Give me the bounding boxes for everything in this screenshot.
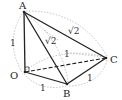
edge-oa: [24, 12, 25, 72]
diagram-canvas: A O B C 1 √2 √2 1 1 1: [0, 0, 122, 100]
length-label-bc: 1: [87, 73, 93, 83]
vertex-label-a: A: [18, 0, 27, 11]
length-label-oc: 1: [64, 49, 70, 59]
vertex-a-dot: [23, 11, 26, 14]
vertex-label-o: O: [10, 70, 18, 81]
vertex-label-b: B: [63, 88, 70, 99]
length-label-ab: √2: [45, 36, 56, 46]
length-label-oa: 1: [10, 38, 16, 48]
tetrahedron-diagram: A O B C 1 √2 √2 1 1 1: [0, 0, 122, 100]
length-label-ac: √2: [68, 26, 79, 36]
vertex-label-c: C: [110, 54, 118, 65]
vertex-o-dot: [24, 71, 27, 74]
length-label-ob: 1: [40, 83, 46, 93]
vertex-c-dot: [105, 57, 108, 60]
vertex-b-dot: [66, 83, 69, 86]
